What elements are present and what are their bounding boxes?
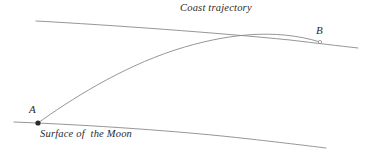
ascent-trajectory-curve — [38, 34, 320, 123]
lunar-trajectory-figure: Coast trajectory Surface of the Moon A B — [0, 0, 372, 156]
point-b-marker — [318, 40, 321, 43]
surface-of-the-moon-label: Surface of the Moon — [40, 129, 132, 140]
point-a-marker — [35, 120, 40, 125]
point-a-label: A — [29, 104, 36, 115]
coast-trajectory-label: Coast trajectory — [180, 3, 252, 14]
trajectory-points — [35, 40, 321, 125]
point-b-label: B — [316, 25, 323, 36]
